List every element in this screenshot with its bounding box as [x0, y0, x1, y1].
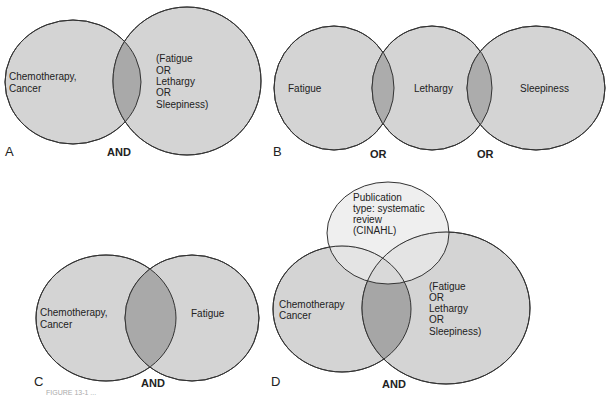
label-d-right-3: OR — [429, 314, 444, 325]
label-sleepiness: Sleepiness — [520, 83, 569, 94]
operator-d: AND — [382, 378, 406, 390]
label-d-top-1: type: systematic — [353, 203, 425, 214]
operator-b-0: OR — [370, 148, 387, 160]
label-d-left-0: Chemotherapy — [279, 299, 345, 310]
label-d-top-2: review — [353, 214, 383, 225]
label-a-right-0: (Fatigue — [156, 53, 193, 64]
label-a-left-1: Cancer — [9, 83, 42, 94]
panel-a: Chemotherapy, Cancer (Fatigue OR Letharg… — [5, 7, 261, 159]
label-a-right-2: Lethargy — [156, 76, 195, 87]
label-lethargy: Lethargy — [414, 83, 453, 94]
label-a-right-3: OR — [156, 87, 171, 98]
label-a-left-0: Chemotherapy, — [9, 71, 77, 82]
label-d-right-0: (Fatigue — [429, 281, 466, 292]
label-c-left-1: Cancer — [40, 319, 73, 330]
figure-caption: FIGURE 13-1 ... — [46, 389, 96, 396]
label-a-right-1: OR — [156, 65, 171, 76]
operator-c: AND — [141, 377, 165, 389]
label-c-left-0: Chemotherapy, — [40, 307, 108, 318]
panel-letter-a: A — [5, 144, 14, 159]
operator-a: AND — [107, 146, 131, 158]
label-d-left-1: Cancer — [279, 310, 312, 321]
panel-letter-c: C — [34, 374, 43, 389]
venn-figure: Chemotherapy, Cancer (Fatigue OR Letharg… — [0, 0, 608, 396]
label-d-right-4: Sleepiness) — [429, 326, 481, 337]
label-d-right-2: Lethargy — [429, 303, 468, 314]
label-a-right-4: Sleepiness) — [156, 99, 208, 110]
panel-d: Publication type: systematic review (CIN… — [271, 182, 530, 390]
panel-letter-d: D — [271, 374, 280, 389]
label-d-top-0: Publication — [353, 192, 402, 203]
panel-c: Chemotherapy, Cancer Fatigue C AND — [34, 255, 259, 389]
label-fatigue: Fatigue — [288, 83, 322, 94]
label-d-top-3: (CINAHL) — [353, 225, 396, 236]
label-c-right-0: Fatigue — [191, 308, 225, 319]
panel-b: Fatigue Lethargy Sleepiness B OR OR — [273, 26, 605, 160]
operator-b-1: OR — [477, 148, 494, 160]
panel-letter-b: B — [273, 144, 282, 159]
label-d-right-1: OR — [429, 292, 444, 303]
